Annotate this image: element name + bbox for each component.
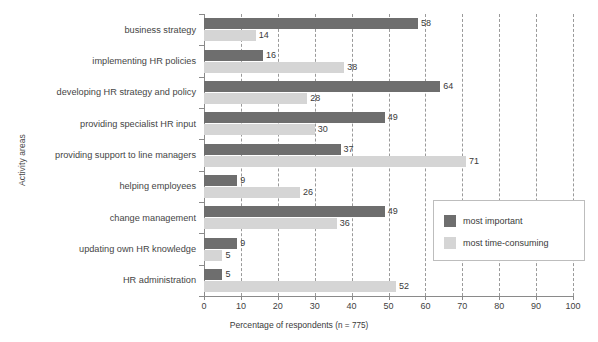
x-tick-label-80: 80 [484, 301, 514, 311]
bar-value-label: 26 [303, 187, 313, 198]
x-tick-label-30: 30 [300, 301, 330, 311]
bar-most-important [204, 81, 440, 92]
category-label: providing support to line managers [6, 150, 196, 160]
bar-most-time-consuming [204, 187, 300, 198]
bar-value-label: 5 [225, 250, 230, 261]
bar-value-label: 49 [388, 206, 398, 217]
x-tick-60 [425, 296, 426, 300]
x-tick-40 [352, 296, 353, 300]
chart-legend: most important most time-consuming [433, 200, 585, 261]
x-tick-label-100: 100 [558, 301, 588, 311]
x-tick-label-0: 0 [189, 301, 219, 311]
x-tick-80 [499, 296, 500, 300]
category-label-group: business strategyimplementing HR policie… [8, 14, 200, 296]
x-axis-title-sample-size: (n = 775) [335, 321, 368, 330]
bar-most-time-consuming [204, 62, 344, 73]
x-tick-100 [573, 296, 574, 300]
bar-most-time-consuming [204, 250, 222, 261]
x-tick-90 [536, 296, 537, 300]
bar-value-label: 30 [318, 124, 328, 135]
category-label: updating own HR knowledge [6, 244, 196, 254]
bar-value-label: 49 [388, 112, 398, 123]
x-tick-label-90: 90 [521, 301, 551, 311]
y-tick [199, 265, 204, 266]
legend-item-most-time-consuming: most time-consuming [444, 236, 549, 250]
bar-most-time-consuming [204, 156, 466, 167]
y-tick [199, 171, 204, 172]
y-tick [199, 139, 204, 140]
category-label: HR administration [6, 275, 196, 285]
x-tick-label-20: 20 [263, 301, 293, 311]
category-label: providing specialist HR input [6, 119, 196, 129]
category-label: change management [6, 213, 196, 223]
category-label: helping employees [6, 181, 196, 191]
bar-value-label: 9 [240, 238, 245, 249]
y-tick [199, 77, 204, 78]
bar-value-label: 9 [240, 175, 245, 186]
category-label: implementing HR policies [6, 56, 196, 66]
category-label: developing HR strategy and policy [6, 87, 196, 97]
x-tick-20 [278, 296, 279, 300]
x-tick-10 [241, 296, 242, 300]
legend-label-most-important: most important [463, 216, 523, 226]
bar-value-label: 5 [225, 269, 230, 280]
y-tick [199, 14, 204, 15]
bar-most-important [204, 144, 341, 155]
bar-most-time-consuming [204, 281, 396, 292]
x-tick-label-40: 40 [337, 301, 367, 311]
x-tick-label-10: 10 [226, 301, 256, 311]
legend-item-most-important: most important [444, 214, 523, 228]
bar-value-label: 16 [266, 50, 276, 61]
x-tick-label-50: 50 [374, 301, 404, 311]
x-tick-label-60: 60 [410, 301, 440, 311]
bar-value-label: 71 [469, 156, 479, 167]
legend-swatch-icon-most-important [444, 215, 456, 227]
bar-most-important [204, 50, 263, 61]
bar-most-time-consuming [204, 30, 256, 41]
bar-most-important [204, 269, 222, 280]
bar-value-label: 37 [344, 144, 354, 155]
bar-value-label: 52 [399, 281, 409, 292]
category-label: business strategy [6, 25, 196, 35]
bar-most-important [204, 18, 418, 29]
bar-most-important [204, 238, 237, 249]
bar-most-time-consuming [204, 218, 337, 229]
bar-chart: Activity areas business strategyimplemen… [0, 0, 598, 342]
bar-value-label: 58 [421, 18, 431, 29]
bar-most-time-consuming [204, 93, 307, 104]
x-tick-30 [315, 296, 316, 300]
y-tick [199, 296, 204, 297]
bar-value-label: 36 [340, 218, 350, 229]
bar-value-label: 64 [443, 81, 453, 92]
x-axis-title: Percentage of respondents (n = 775) [0, 320, 598, 330]
y-tick [199, 233, 204, 234]
bar-value-label: 28 [310, 93, 320, 104]
y-tick [199, 45, 204, 46]
x-axis-title-main: Percentage of respondents [230, 320, 336, 330]
x-tick-70 [462, 296, 463, 300]
legend-label-most-time-consuming: most time-consuming [463, 238, 549, 248]
bar-value-label: 38 [347, 62, 357, 73]
x-tick-0 [204, 296, 205, 300]
bar-value-label: 14 [259, 30, 269, 41]
y-tick [199, 202, 204, 203]
bar-most-important [204, 112, 385, 123]
x-tick-label-70: 70 [447, 301, 477, 311]
y-tick [199, 108, 204, 109]
x-tick-50 [389, 296, 390, 300]
bar-most-important [204, 206, 385, 217]
legend-swatch-icon-most-time-consuming [444, 237, 456, 249]
bar-most-time-consuming [204, 124, 315, 135]
bar-most-important [204, 175, 237, 186]
